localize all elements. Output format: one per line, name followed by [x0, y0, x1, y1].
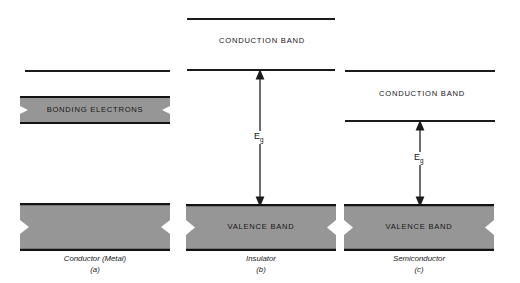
panel-c-conduction-band-top-line — [345, 70, 495, 72]
panel-c-valence-band-label: VALENCE BAND — [340, 223, 498, 231]
panel-c-eg-subscript: g — [420, 157, 424, 164]
panel-c-conduction-band-label: CONDUCTION BAND — [336, 90, 508, 98]
panel-c-energy-gap-label: Eg — [412, 152, 426, 165]
panel-insulator: CONDUCTION BAND Eg VALENCE BAND Insulato… — [178, 0, 346, 283]
panel-conductor: BONDING ELECTRONS Conductor (Metal) (a) — [0, 0, 188, 283]
panel-a-caption: Conductor (Metal) (a) — [16, 253, 174, 276]
panel-b-conduction-band-label: CONDUCTION BAND — [178, 37, 346, 45]
panel-b-energy-gap-label: Eg — [252, 131, 266, 144]
panel-b-caption-index: (b) — [256, 265, 266, 274]
panel-b-valence-band-label: VALENCE BAND — [182, 223, 340, 231]
panel-b-eg-subscript: g — [260, 136, 264, 143]
panel-a-bonding-electrons-label: BONDING ELECTRONS — [16, 106, 174, 114]
panel-b-caption: Insulator (b) — [182, 253, 340, 276]
panel-a-caption-name: Conductor (Metal) — [64, 254, 126, 263]
panel-c-caption-index: (c) — [414, 265, 423, 274]
panel-semiconductor: CONDUCTION BAND Eg VALENCE BAND Semicond… — [336, 0, 520, 283]
panel-a-caption-index: (a) — [90, 265, 100, 274]
panel-c-caption: Semiconductor (c) — [340, 253, 498, 276]
panel-b-caption-name: Insulator — [246, 254, 276, 263]
panel-a-valence-band — [16, 203, 174, 251]
panel-c-caption-name: Semiconductor — [393, 254, 445, 263]
panel-a-upper-edge-line — [25, 70, 170, 72]
band-diagram-figure: BONDING ELECTRONS Conductor (Metal) (a) … — [0, 0, 520, 283]
panel-b-conduction-band-top-line — [187, 18, 335, 20]
